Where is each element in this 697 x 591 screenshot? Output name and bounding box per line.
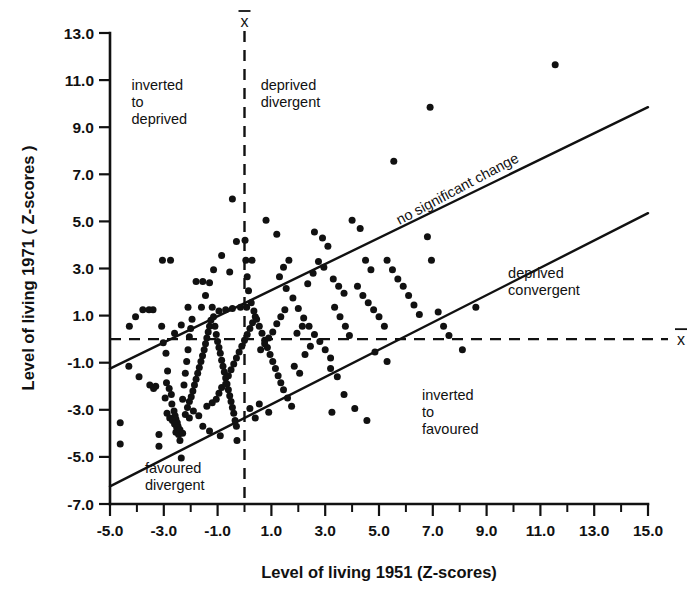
- data-point: [179, 396, 186, 403]
- data-point: [126, 323, 133, 330]
- data-point: [252, 415, 259, 422]
- data-point: [215, 307, 222, 314]
- data-point: [117, 440, 124, 447]
- data-point: [384, 257, 391, 264]
- data-point: [288, 403, 295, 410]
- data-point: [320, 264, 327, 271]
- data-point: [257, 346, 264, 353]
- data-point: [256, 323, 263, 330]
- data-point: [296, 370, 303, 377]
- data-point: [365, 299, 372, 306]
- data-point: [203, 334, 210, 341]
- data-point: [206, 428, 213, 435]
- data-point: [195, 412, 202, 419]
- data-point: [219, 363, 226, 370]
- data-point: [250, 307, 257, 314]
- data-point: [201, 346, 208, 353]
- data-point: [384, 358, 391, 365]
- data-point: [191, 382, 198, 389]
- data-point: [205, 329, 212, 336]
- data-point: [188, 393, 195, 400]
- data-point: [394, 276, 401, 283]
- data-point: [390, 158, 397, 165]
- data-point: [210, 313, 217, 320]
- data-point: [229, 305, 236, 312]
- inverted-to-deprived-line: inverted: [132, 77, 184, 93]
- data-point: [349, 217, 356, 224]
- data-point: [335, 283, 342, 290]
- data-point: [233, 238, 240, 245]
- data-point: [202, 292, 209, 299]
- data-point: [193, 278, 200, 285]
- x-tick-label: 3.0: [314, 522, 336, 539]
- chart-background: [0, 0, 697, 591]
- data-point: [180, 382, 187, 389]
- data-point: [189, 316, 196, 323]
- data-point: [306, 323, 313, 330]
- data-point: [150, 385, 157, 392]
- data-point: [280, 386, 287, 393]
- data-point: [159, 257, 166, 264]
- data-point: [199, 278, 206, 285]
- data-point: [363, 417, 370, 424]
- data-point: [304, 280, 311, 287]
- data-point: [285, 257, 292, 264]
- data-point: [367, 266, 374, 273]
- data-point: [341, 290, 348, 297]
- data-point: [261, 340, 268, 347]
- data-point: [334, 373, 341, 380]
- deprived-divergent: depriveddivergent: [261, 77, 321, 110]
- x-tick-label: -5.0: [97, 522, 124, 539]
- inverted-to-favoured-line: favoured: [422, 421, 478, 437]
- data-point: [194, 370, 201, 377]
- data-point: [424, 233, 431, 240]
- data-point: [162, 350, 169, 357]
- data-point: [232, 417, 239, 424]
- data-point: [552, 61, 559, 68]
- data-point: [459, 346, 466, 353]
- data-point: [215, 344, 222, 351]
- data-point: [176, 437, 183, 444]
- data-point: [273, 320, 280, 327]
- y-tick-label: 11.0: [65, 72, 94, 89]
- data-point: [273, 231, 280, 238]
- scatter-plot-figure: -7.0-5.0-3.0-1.01.03.05.07.09.011.013.0 …: [0, 0, 697, 591]
- data-point: [337, 313, 344, 320]
- data-point: [362, 257, 369, 264]
- data-point: [228, 398, 235, 405]
- data-point: [322, 346, 329, 353]
- data-point: [263, 217, 270, 224]
- data-point: [185, 304, 192, 311]
- data-point: [190, 407, 197, 414]
- data-point: [206, 279, 213, 286]
- data-point: [249, 257, 256, 264]
- data-point: [189, 387, 196, 394]
- chart-canvas: -7.0-5.0-3.0-1.01.03.05.07.09.011.013.0 …: [0, 0, 697, 591]
- data-point: [280, 264, 287, 271]
- data-point: [346, 332, 353, 339]
- x-tick-label: 5.0: [368, 522, 390, 539]
- deprived-convergent-line: convergent: [508, 282, 580, 298]
- data-point: [445, 332, 452, 339]
- data-point: [330, 276, 337, 283]
- y-tick-label: 13.0: [64, 25, 94, 42]
- data-point: [197, 358, 204, 365]
- data-point: [160, 339, 167, 346]
- x-tick-label: -1.0: [204, 522, 231, 539]
- deprived-divergent-line: divergent: [261, 94, 321, 110]
- data-point: [400, 283, 407, 290]
- data-point: [158, 323, 165, 330]
- x-axis-title: Level of living 1951 (Z-scores): [261, 563, 497, 581]
- data-point: [213, 331, 220, 338]
- inverted-to-deprived-line: to: [132, 94, 144, 110]
- data-point: [277, 313, 284, 320]
- data-point: [327, 365, 334, 372]
- data-point: [319, 234, 326, 241]
- data-point: [233, 423, 240, 430]
- data-point: [269, 358, 276, 365]
- data-point: [226, 392, 233, 399]
- data-point: [316, 338, 323, 345]
- inverted-to-favoured-line: inverted: [422, 387, 474, 403]
- data-point: [328, 409, 335, 416]
- data-point: [307, 343, 314, 350]
